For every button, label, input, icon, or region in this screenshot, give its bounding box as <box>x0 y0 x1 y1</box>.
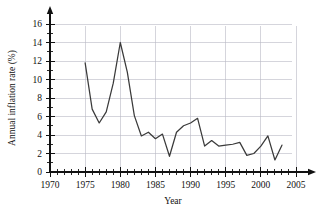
chart-figure: 19701975198019851990199520002005 0246810… <box>0 0 323 209</box>
y-tick-label: 10 <box>33 75 43 85</box>
x-tick-label: 1995 <box>216 180 235 190</box>
y-tick-label: 2 <box>37 149 42 159</box>
x-axis-tick-labels: 19701975198019851990199520002005 <box>41 180 306 190</box>
x-tick-label: 1980 <box>111 180 130 190</box>
y-tick-label: 16 <box>33 19 43 29</box>
y-tick-label: 8 <box>37 93 42 103</box>
y-axis-title: Annual inflation rate (%) <box>7 50 18 146</box>
x-tick-label: 1985 <box>146 180 165 190</box>
line-chart: 19701975198019851990199520002005 0246810… <box>0 0 323 209</box>
y-axis-arrow-icon <box>47 6 53 14</box>
x-tick-label: 1990 <box>181 180 200 190</box>
data-series-line <box>85 43 282 160</box>
x-axis-title: Year <box>164 196 182 206</box>
y-axis-tick-labels: 0246810121416 <box>33 19 43 177</box>
y-tick-label: 14 <box>33 38 43 48</box>
x-tick-label: 2005 <box>287 180 306 190</box>
data-series <box>85 43 282 160</box>
gridlines-vertical <box>85 26 296 172</box>
x-axis-arrow-icon <box>308 169 316 175</box>
x-tick-label: 1970 <box>41 180 60 190</box>
y-tick-label: 6 <box>37 112 42 122</box>
y-tick-label: 12 <box>33 56 43 66</box>
x-tick-label: 2000 <box>251 180 270 190</box>
x-tick-label: 1975 <box>76 180 95 190</box>
y-tick-label: 4 <box>37 130 42 140</box>
x-axis <box>50 169 316 175</box>
y-tick-label: 0 <box>37 167 42 177</box>
gridlines-horizontal <box>50 24 292 154</box>
